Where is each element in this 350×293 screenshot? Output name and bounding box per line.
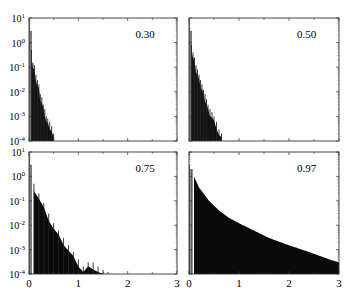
panel-br xyxy=(189,152,339,274)
x-tick-label: 2 xyxy=(125,277,131,289)
x-tick-label: 1 xyxy=(76,277,82,289)
x-tick-label: 1 xyxy=(236,277,242,289)
y-tick-label: 101 xyxy=(12,146,26,158)
y-tick-label: 100 xyxy=(12,170,26,182)
x-tick-label: 0 xyxy=(186,277,192,289)
x-tick-label: 3 xyxy=(174,277,180,289)
panel-label-bl: 0.75 xyxy=(136,162,156,174)
y-tick-label: 100 xyxy=(12,37,26,49)
panel-label-tr: 0.50 xyxy=(297,28,317,40)
panel-label-tl: 0.30 xyxy=(136,28,156,40)
x-tick-label: 0 xyxy=(26,277,32,289)
y-tick-label: 10-1 xyxy=(9,195,25,207)
y-tick-label: 10-1 xyxy=(9,61,25,73)
y-tick-label: 10-3 xyxy=(9,244,25,256)
x-tick-label: 3 xyxy=(336,277,342,289)
y-tick-label: 10-2 xyxy=(9,219,25,231)
y-tick-label: 10-3 xyxy=(9,110,25,122)
panel-tr xyxy=(189,18,339,141)
x-tick-label: 2 xyxy=(286,277,292,289)
y-tick-label: 10-2 xyxy=(9,86,25,98)
panel-label-br: 0.97 xyxy=(297,162,317,174)
y-tick-label: 101 xyxy=(12,12,26,24)
y-tick-label: 10-4 xyxy=(9,268,25,280)
figure: 0.3010110010-110-210-310-40.500.75101100… xyxy=(0,0,350,293)
